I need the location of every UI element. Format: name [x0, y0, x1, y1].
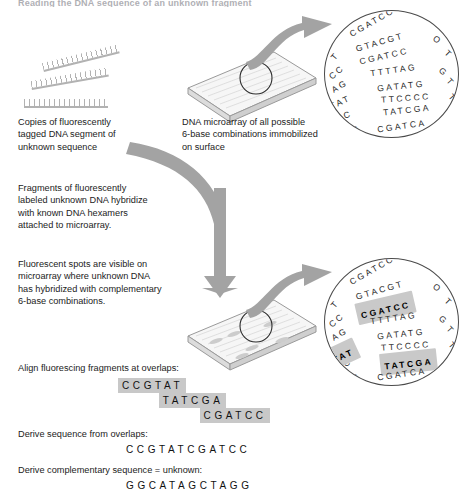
magnifier-top: CGATCCGTACGTCGATCCTTTTAGGATATGTTCCCCTATC…: [324, 10, 459, 138]
complement-step-label: Derive complementary sequence = unknown:: [18, 464, 298, 476]
edge-base-letter: T: [329, 50, 342, 62]
dna-fragment-comb-1: [41, 41, 120, 72]
alignment-fragment-row: CCGTAT: [118, 378, 186, 393]
hexamer-sequence: TATCGA: [383, 103, 432, 118]
edge-base-letter: ACA: [420, 126, 447, 138]
edge-base-letter: T: [329, 298, 342, 310]
magnifier-bottom: CGATCCGTACGTCGATCCTTTTAGGATATGTTCCCCTATC…: [324, 258, 459, 386]
hexamer-sequence: TTTTAG: [370, 62, 418, 78]
alignment-fragment-row: TATCGA: [159, 393, 227, 408]
dna-fragment-comb-3: [24, 96, 108, 108]
truncated-header-text: Reading the DNA sequence of an unknown f…: [18, 0, 348, 7]
highlighted-edge-hexamer: TAT: [324, 338, 361, 371]
caption-hybridize: Fragments of fluorescently labeled unkno…: [18, 182, 198, 232]
edge-base-letter: T: [443, 296, 455, 308]
edge-base-letter: T: [445, 324, 458, 336]
derived-sequence: CCGTATCGATCC: [126, 444, 250, 455]
edge-base-letter: G: [437, 65, 450, 79]
edge-base-letter: T: [447, 340, 459, 352]
align-step-label: Align fluorescing fragments at overlaps:: [18, 362, 278, 374]
figure-root: Reading the DNA sequence of an unknown f…: [0, 0, 465, 495]
caption-fluorescent-spots: Fluorescent spots are visible on microar…: [18, 258, 208, 308]
hexamer-sequence: CGATCA: [377, 118, 427, 135]
edge-base-letter: O: [431, 33, 444, 47]
edge-base-letter: T: [445, 76, 458, 88]
caption-microarray: DNA microarray of all possible 6-base co…: [182, 116, 362, 153]
edge-base-letter: T: [447, 92, 459, 104]
derive-step-label: Derive sequence from overlaps:: [18, 428, 278, 440]
complementary-sequence: GGCATAGCTAGG: [126, 480, 253, 491]
edge-base-letter: ACA: [420, 374, 447, 386]
dna-fragment-comb-2: [30, 65, 109, 90]
edge-base-letter: O: [431, 281, 444, 295]
alignment-fragment-row: CGATCC: [200, 408, 270, 423]
edge-base-letter: G: [437, 313, 450, 327]
edge-base-letter: T: [443, 48, 455, 60]
caption-fluorescent-copies: Copies of fluorescently tagged DNA segme…: [18, 116, 178, 153]
edge-base-letter: GA: [343, 371, 362, 384]
